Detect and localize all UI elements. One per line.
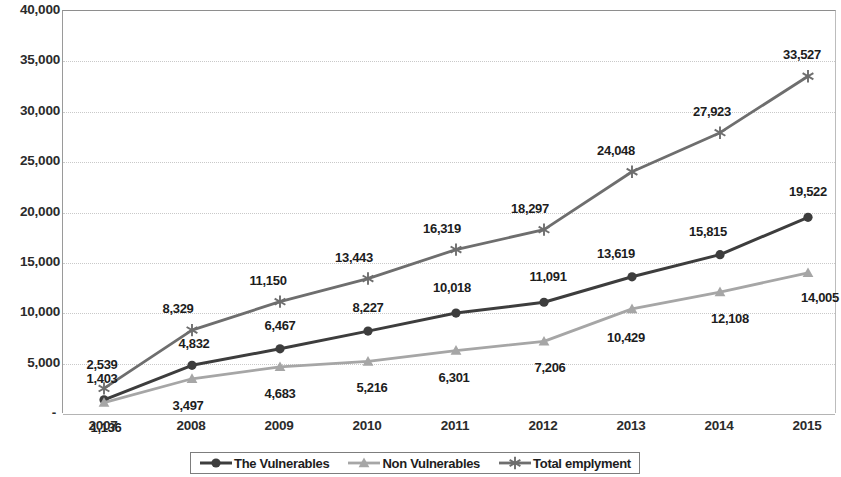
data-point-label: 10,018	[433, 280, 471, 295]
data-point-label: 24,048	[597, 142, 635, 157]
x-axis-tick-label: 2013	[616, 418, 645, 433]
legend-label: Non Vulnerables	[382, 456, 480, 471]
data-point-marker	[803, 70, 814, 82]
y-axis-tick-label: -	[0, 406, 60, 420]
data-point-label: 14,005	[801, 289, 839, 304]
x-axis-tick-label: 2008	[176, 418, 205, 433]
data-point-marker	[363, 327, 372, 336]
y-axis: -5,00010,00015,00020,00025,00030,00035,0…	[0, 0, 60, 477]
x-axis: 200720082009201020112012201320142015	[62, 418, 836, 442]
data-point-label: 8,227	[352, 300, 383, 315]
data-point-label: 1,403	[86, 370, 117, 385]
legend-item[interactable]: Total emplyment	[498, 456, 631, 471]
line-chart: -5,00010,00015,00020,00025,00030,00035,0…	[0, 0, 841, 477]
y-axis-tick-label: 15,000	[4, 255, 60, 269]
data-point-marker	[211, 458, 220, 467]
y-axis-tick-label: 25,000	[4, 154, 60, 168]
data-point-label: 16,319	[423, 220, 461, 235]
x-axis-tick-label: 2014	[704, 418, 733, 433]
x-axis-tick-label: 2010	[352, 418, 381, 433]
legend-item[interactable]: The Vulnerables	[199, 456, 329, 471]
y-axis-tick-label: 5,000	[4, 356, 60, 370]
x-axis-tick-label: 2015	[792, 418, 821, 433]
y-axis-tick-label: 35,000	[4, 54, 60, 68]
data-point-label: 33,527	[783, 47, 821, 62]
legend-swatch-triangle-icon	[347, 456, 381, 470]
data-point-label: 7,206	[534, 360, 565, 375]
x-axis-tick-label: 2007	[88, 418, 117, 433]
y-axis-tick-label: 40,000	[4, 3, 60, 17]
data-point-marker	[715, 126, 726, 138]
data-point-marker	[715, 250, 724, 259]
legend-label: The Vulnerables	[234, 456, 329, 471]
data-point-label: 10,429	[607, 329, 645, 344]
y-axis-tick-label: 20,000	[4, 205, 60, 219]
gridline	[63, 414, 835, 415]
data-point-label: 11,150	[249, 272, 286, 287]
data-point-marker	[627, 166, 638, 178]
series-layer	[63, 11, 837, 414]
data-point-label: 4,832	[178, 336, 209, 351]
data-point-marker	[451, 308, 460, 317]
x-axis-tick-label: 2009	[264, 418, 293, 433]
data-point-label: 2,539	[86, 357, 117, 372]
data-point-label: 19,522	[789, 184, 827, 199]
y-axis-tick-label: 10,000	[4, 306, 60, 320]
plot-area: 1,4034,8326,4678,22710,01811,09113,61915…	[62, 10, 836, 413]
data-point-marker	[187, 361, 196, 370]
data-point-label: 3,497	[172, 397, 203, 412]
legend-label: Total emplyment	[533, 456, 631, 471]
legend-swatch-circle-icon	[199, 456, 233, 470]
data-point-marker	[539, 298, 548, 307]
x-axis-tick-label: 2012	[528, 418, 557, 433]
legend-item[interactable]: Non Vulnerables	[347, 456, 480, 471]
data-point-label: 27,923	[693, 103, 731, 118]
data-point-label: 13,619	[597, 245, 635, 260]
data-point-label: 12,108	[711, 311, 749, 326]
data-point-label: 11,091	[529, 269, 566, 284]
data-point-label: 6,467	[264, 317, 295, 332]
x-axis-tick-label: 2011	[441, 418, 470, 433]
y-axis-tick-label: 30,000	[4, 104, 60, 118]
legend-swatch-asterisk-icon	[498, 456, 532, 470]
data-point-marker	[275, 344, 284, 353]
data-point-label: 8,329	[162, 301, 193, 316]
data-point-label: 5,216	[356, 380, 387, 395]
data-point-label: 18,297	[511, 200, 549, 215]
chart-legend: The VulnerablesNon VulnerablesTotal empl…	[190, 452, 640, 474]
data-point-label: 15,815	[689, 223, 727, 238]
data-point-marker	[627, 272, 636, 281]
data-point-label: 6,301	[438, 369, 469, 384]
data-point-marker	[803, 213, 812, 222]
data-point-label: 4,683	[264, 385, 295, 400]
data-point-label: 13,443	[335, 249, 373, 264]
